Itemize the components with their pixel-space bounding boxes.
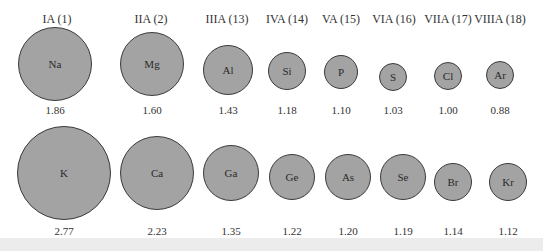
atom-circle-br <box>434 163 472 201</box>
radius-value: 2.23 <box>147 225 166 237</box>
atom-circle-k <box>17 126 111 220</box>
radius-value: 1.00 <box>438 104 457 116</box>
atom-circle-s <box>379 63 407 91</box>
group-header: IVA (14) <box>266 12 308 27</box>
radius-value: 1.22 <box>282 225 301 237</box>
group-header: VIIIA (18) <box>474 12 526 27</box>
radius-value: 1.35 <box>221 225 240 237</box>
radius-value: 1.60 <box>142 104 161 116</box>
radius-value: 1.19 <box>393 225 412 237</box>
radius-value: 1.12 <box>498 225 517 237</box>
atom-circle-ca <box>120 136 194 210</box>
radius-value: 1.86 <box>45 104 64 116</box>
atom-circle-ga <box>203 145 259 201</box>
radius-value: 1.10 <box>331 104 350 116</box>
atom-circle-as <box>325 154 371 200</box>
radius-value: 2.77 <box>54 225 73 237</box>
atom-circle-si <box>268 52 306 90</box>
group-header: VIA (16) <box>372 12 416 27</box>
atom-circle-se <box>380 154 426 200</box>
group-header: IA (1) <box>43 12 72 27</box>
radius-value: 1.43 <box>218 104 237 116</box>
radius-value: 0.88 <box>490 104 509 116</box>
atomic-radii-diagram: IA (1)IIA (2)IIIA (13)IVA (14)VA (15)VIA… <box>0 0 543 251</box>
group-header: VIIA (17) <box>424 12 472 27</box>
group-header: IIIA (13) <box>206 12 249 27</box>
radius-value: 1.03 <box>383 104 402 116</box>
atom-circle-na <box>18 27 92 101</box>
atom-circle-kr <box>489 163 527 201</box>
atom-circle-ar <box>486 61 514 89</box>
group-header: IIA (2) <box>135 12 168 27</box>
bottom-band <box>0 238 543 251</box>
radius-value: 1.20 <box>338 225 357 237</box>
atom-circle-cl <box>434 62 462 90</box>
atom-circle-p <box>324 55 358 89</box>
radius-value: 1.18 <box>277 104 296 116</box>
atom-circle-mg <box>120 32 184 96</box>
group-header: VA (15) <box>322 12 360 27</box>
radius-value: 1.14 <box>443 225 462 237</box>
atom-circle-al <box>203 45 253 95</box>
atom-circle-ge <box>269 154 315 200</box>
